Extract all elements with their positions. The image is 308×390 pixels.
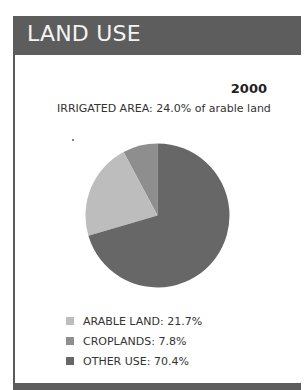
year-label: 2000 bbox=[231, 81, 267, 96]
pie-chart bbox=[85, 143, 230, 288]
panel-title: Land Use bbox=[27, 21, 141, 46]
legend-swatch-croplands bbox=[66, 337, 74, 345]
marker-dot bbox=[72, 139, 74, 141]
legend-label: CROPLANDS: 7.8% bbox=[83, 335, 186, 348]
legend-label: ARABLE LAND: 21.7% bbox=[83, 315, 202, 328]
legend-item-croplands: CROPLANDS: 7.8% bbox=[66, 331, 202, 351]
legend: ARABLE LAND: 21.7% CROPLANDS: 7.8% OTHER… bbox=[66, 311, 202, 371]
legend-item-other-use: OTHER USE: 70.4% bbox=[66, 351, 202, 371]
legend-swatch-arable-land bbox=[66, 317, 74, 325]
panel-header: Land Use bbox=[13, 16, 301, 55]
irrigated-area-note: IRRIGATED AREA: 24.0% of arable land bbox=[57, 102, 271, 115]
panel-footer-bar bbox=[13, 383, 301, 390]
legend-label: OTHER USE: 70.4% bbox=[83, 355, 189, 368]
legend-swatch-other-use bbox=[66, 357, 74, 365]
legend-item-arable-land: ARABLE LAND: 21.7% bbox=[66, 311, 202, 331]
